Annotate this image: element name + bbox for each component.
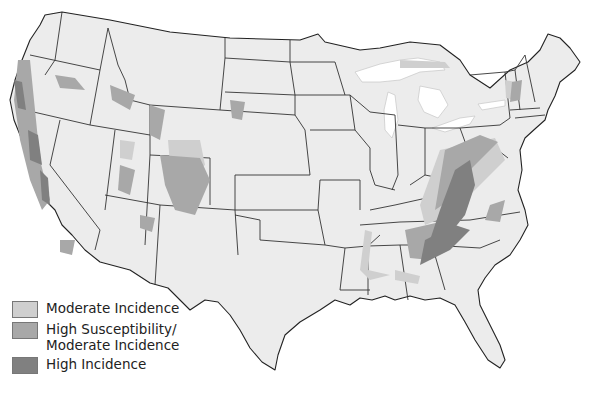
legend-label: High Incidence xyxy=(46,356,216,372)
legend-label: High Susceptibility/ Moderate Incidence xyxy=(46,321,216,353)
legend-item-high-incidence: High Incidence xyxy=(12,356,216,374)
legend-item-moderate-incidence: Moderate Incidence xyxy=(12,300,216,318)
map-legend: Moderate Incidence High Susceptibility/ … xyxy=(12,300,216,377)
high-incidence-swatch xyxy=(12,357,38,374)
moderate-incidence-swatch xyxy=(12,301,38,318)
legend-label: Moderate Incidence xyxy=(46,300,216,316)
high-susceptibility-swatch xyxy=(12,322,38,339)
legend-item-high-susceptibility: High Susceptibility/ Moderate Incidence xyxy=(12,321,216,353)
